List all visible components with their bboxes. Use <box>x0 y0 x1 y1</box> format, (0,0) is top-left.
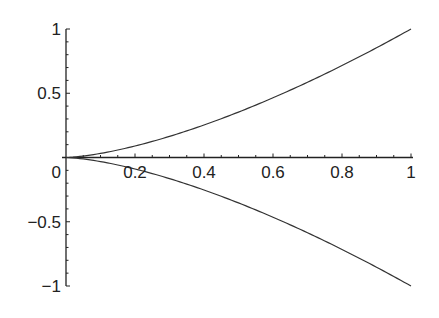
x-tick-label: 0.4 <box>192 163 216 182</box>
plot-area: 0.20.40.60.81−1−0.500.51 <box>0 0 439 318</box>
y-tick-label: −1 <box>42 277 61 296</box>
curve-upper <box>66 29 411 158</box>
x-tick-label: 0.2 <box>123 163 147 182</box>
x-tick-label: 1 <box>406 163 415 182</box>
x-tick-label: 0.6 <box>261 163 285 182</box>
curve-lower <box>66 158 411 287</box>
y-tick-label: 1 <box>52 20 61 39</box>
y-tick-label: 0.5 <box>37 84 61 103</box>
x-tick-label: 0.8 <box>330 163 354 182</box>
y-tick-label: 0 <box>52 163 61 182</box>
y-tick-label: −0.5 <box>27 213 61 232</box>
axes <box>62 29 413 286</box>
